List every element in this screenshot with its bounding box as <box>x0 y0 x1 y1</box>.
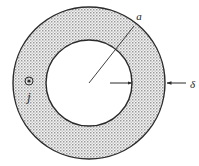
current-out-of-page-dot-icon <box>27 79 30 82</box>
wall-thickness-label: δ <box>190 78 196 90</box>
figure-container: a δ j <box>0 0 199 166</box>
outer-radius-label: a <box>136 10 142 22</box>
annulus-cross-section-diagram: a δ j <box>0 0 199 166</box>
